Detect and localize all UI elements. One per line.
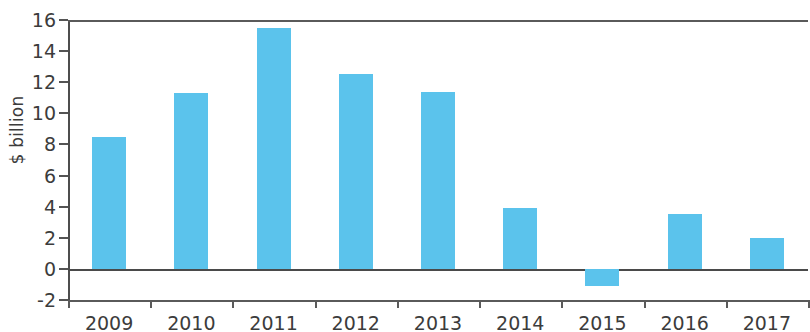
x-tick-label-2016: 2016 bbox=[660, 312, 708, 332]
x-tick-label-2013: 2013 bbox=[414, 312, 462, 332]
y-tick-label: 2 bbox=[12, 227, 56, 249]
bar-2015 bbox=[585, 269, 619, 286]
x-axis-spine bbox=[68, 300, 808, 302]
bar-2013 bbox=[421, 92, 455, 269]
bar-2017 bbox=[750, 238, 784, 269]
bar-2016 bbox=[668, 214, 702, 268]
y-tick-mark bbox=[59, 268, 68, 270]
bar-2014 bbox=[503, 208, 537, 269]
x-tick-mark bbox=[397, 300, 399, 308]
y-tick-label: 14 bbox=[12, 40, 56, 62]
top-rule bbox=[68, 20, 808, 22]
x-tick-mark bbox=[561, 300, 563, 308]
y-tick-label: 8 bbox=[12, 133, 56, 155]
x-tick-mark bbox=[232, 300, 234, 308]
y-tick-mark bbox=[59, 143, 68, 145]
bar-2011 bbox=[257, 28, 291, 269]
bar-2012 bbox=[339, 74, 373, 268]
y-tick-mark bbox=[59, 206, 68, 208]
y-tick-mark bbox=[59, 81, 68, 83]
y-tick-mark bbox=[59, 50, 68, 52]
y-tick-label: 10 bbox=[12, 102, 56, 124]
y-axis-spine bbox=[68, 20, 70, 300]
x-tick-label-2012: 2012 bbox=[332, 312, 380, 332]
y-tick-label: 12 bbox=[12, 71, 56, 93]
y-tick-label: 6 bbox=[12, 165, 56, 187]
x-tick-mark bbox=[150, 300, 152, 308]
y-axis-title: $ billion bbox=[7, 85, 27, 175]
x-tick-mark bbox=[479, 300, 481, 308]
x-tick-label-2014: 2014 bbox=[496, 312, 544, 332]
y-tick-mark bbox=[59, 237, 68, 239]
x-tick-label-2017: 2017 bbox=[743, 312, 791, 332]
x-tick-label-2015: 2015 bbox=[578, 312, 626, 332]
y-tick-label: 4 bbox=[12, 196, 56, 218]
y-tick-mark bbox=[59, 112, 68, 114]
plot-area: -20246810121416 200920102011201220132014… bbox=[68, 20, 808, 300]
zero-baseline bbox=[68, 269, 808, 271]
y-tick-mark bbox=[59, 299, 68, 301]
y-tick-label: 0 bbox=[12, 258, 56, 280]
y-tick-mark bbox=[59, 175, 68, 177]
y-tick-label: -2 bbox=[12, 289, 56, 311]
x-tick-label-2010: 2010 bbox=[167, 312, 215, 332]
y-tick-label: 16 bbox=[12, 9, 56, 31]
bar-2010 bbox=[174, 93, 208, 269]
x-tick-mark bbox=[644, 300, 646, 308]
x-tick-mark bbox=[315, 300, 317, 308]
x-tick-label-2011: 2011 bbox=[249, 312, 297, 332]
bar-2009 bbox=[92, 137, 126, 269]
x-tick-mark bbox=[726, 300, 728, 308]
x-tick-mark bbox=[68, 300, 70, 308]
x-tick-label-2009: 2009 bbox=[85, 312, 133, 332]
y-tick-mark bbox=[59, 19, 68, 21]
